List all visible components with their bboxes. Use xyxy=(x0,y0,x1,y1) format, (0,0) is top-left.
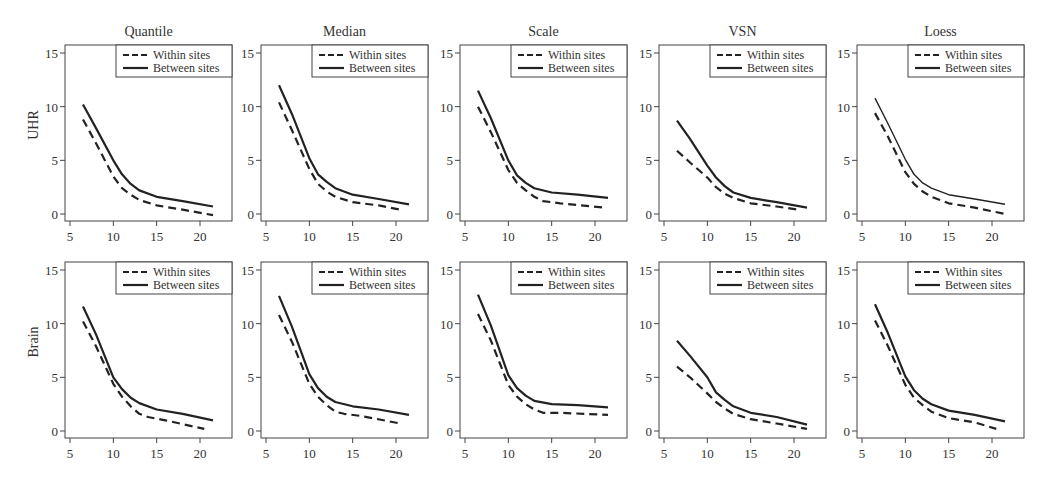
x-tick-label: 15 xyxy=(744,229,757,244)
series-within-sites xyxy=(279,315,400,423)
legend: Within sitesBetween sites xyxy=(511,262,627,294)
x-tick-label: 10 xyxy=(899,229,912,244)
panel-brain-median: 0510155101520Within sitesBetween sites xyxy=(241,262,428,461)
panel-uhr-vsn: VSN0510155101520Within sitesBetween site… xyxy=(639,24,826,244)
x-tick-label: 5 xyxy=(67,229,74,244)
legend-label: Between sites xyxy=(153,61,220,75)
x-tick-label: 10 xyxy=(899,446,912,461)
series-between-sites xyxy=(83,307,213,421)
x-tick-label: 5 xyxy=(859,446,866,461)
y-tick-label: 15 xyxy=(440,263,453,278)
legend-label: Within sites xyxy=(349,48,407,62)
column-title: Scale xyxy=(528,24,558,39)
series-within-sites xyxy=(875,320,996,429)
panel-uhr-scale: Scale0510155101520Within sitesBetween si… xyxy=(440,24,627,244)
y-tick-label: 5 xyxy=(844,370,851,385)
y-tick-label: 15 xyxy=(45,263,58,278)
legend-label: Within sites xyxy=(747,265,805,279)
legend: Within sitesBetween sites xyxy=(511,45,627,77)
small-multiples-figure: UHRQuantile0510155101520Within sitesBetw… xyxy=(0,0,1050,487)
y-tick-label: 5 xyxy=(447,370,454,385)
legend-label: Between sites xyxy=(548,278,615,292)
column-title: VSN xyxy=(728,24,756,39)
x-tick-label: 5 xyxy=(263,446,270,461)
y-tick-label: 0 xyxy=(844,207,851,222)
y-tick-label: 0 xyxy=(646,207,653,222)
x-tick-label: 5 xyxy=(263,229,270,244)
y-tick-label: 5 xyxy=(52,370,59,385)
y-tick-label: 0 xyxy=(52,424,59,439)
x-tick-label: 20 xyxy=(194,229,207,244)
y-tick-label: 10 xyxy=(837,317,850,332)
x-tick-label: 20 xyxy=(390,229,403,244)
x-tick-label: 10 xyxy=(303,446,316,461)
series-between-sites xyxy=(677,341,807,425)
x-tick-label: 5 xyxy=(661,229,668,244)
x-tick-label: 15 xyxy=(150,229,163,244)
legend: Within sitesBetween sites xyxy=(908,45,1024,77)
y-tick-label: 5 xyxy=(248,153,255,168)
series-between-sites xyxy=(478,295,608,408)
column-title: Loess xyxy=(924,24,957,39)
x-tick-label: 10 xyxy=(502,229,515,244)
y-tick-label: 10 xyxy=(241,317,254,332)
y-tick-label: 15 xyxy=(45,46,58,61)
panel-brain-loess: 0510155101520Within sitesBetween sites xyxy=(837,262,1024,461)
legend: Within sitesBetween sites xyxy=(312,262,428,294)
y-tick-label: 15 xyxy=(639,46,652,61)
legend-label: Within sites xyxy=(349,265,407,279)
y-tick-label: 5 xyxy=(447,153,454,168)
x-tick-label: 20 xyxy=(986,446,999,461)
column-title: Quantile xyxy=(124,24,172,39)
x-tick-label: 20 xyxy=(390,446,403,461)
y-tick-label: 5 xyxy=(248,370,255,385)
y-tick-label: 0 xyxy=(248,207,255,222)
x-tick-label: 5 xyxy=(661,446,668,461)
legend-label: Between sites xyxy=(747,61,814,75)
x-tick-label: 20 xyxy=(194,446,207,461)
legend: Within sitesBetween sites xyxy=(116,45,232,77)
x-tick-label: 10 xyxy=(303,229,316,244)
y-tick-label: 0 xyxy=(646,424,653,439)
series-within-sites xyxy=(83,322,204,429)
legend-label: Within sites xyxy=(153,48,211,62)
x-tick-label: 20 xyxy=(986,229,999,244)
legend-label: Between sites xyxy=(548,61,615,75)
panel-brain-quantile: 0510155101520Within sitesBetween sites xyxy=(45,262,232,461)
y-tick-label: 10 xyxy=(440,100,453,115)
x-tick-label: 10 xyxy=(701,229,714,244)
series-within-sites xyxy=(478,314,608,415)
legend-label: Between sites xyxy=(349,61,416,75)
series-within-sites xyxy=(875,113,1005,214)
panel-uhr-quantile: Quantile0510155101520Within sitesBetween… xyxy=(45,24,232,244)
row-label-brain: Brain xyxy=(26,326,41,357)
y-tick-label: 5 xyxy=(844,153,851,168)
y-tick-label: 15 xyxy=(241,263,254,278)
legend-label: Within sites xyxy=(945,48,1003,62)
x-tick-label: 5 xyxy=(462,229,469,244)
y-tick-label: 10 xyxy=(639,100,652,115)
y-tick-label: 0 xyxy=(447,207,454,222)
x-tick-label: 15 xyxy=(545,446,558,461)
x-tick-label: 10 xyxy=(701,446,714,461)
y-tick-label: 10 xyxy=(45,317,58,332)
x-tick-label: 15 xyxy=(942,229,955,244)
x-tick-label: 20 xyxy=(589,229,602,244)
y-tick-label: 5 xyxy=(646,153,653,168)
x-tick-label: 15 xyxy=(942,446,955,461)
y-tick-label: 5 xyxy=(52,153,59,168)
x-tick-label: 10 xyxy=(107,229,120,244)
panel-uhr-median: Median0510155101520Within sitesBetween s… xyxy=(241,24,428,244)
x-tick-label: 20 xyxy=(589,446,602,461)
x-tick-label: 20 xyxy=(788,229,801,244)
column-title: Median xyxy=(323,24,366,39)
legend-label: Between sites xyxy=(153,278,220,292)
legend: Within sitesBetween sites xyxy=(710,262,826,294)
legend-label: Between sites xyxy=(945,278,1012,292)
panel-uhr-loess: Loess0510155101520Within sitesBetween si… xyxy=(837,24,1024,244)
x-tick-label: 15 xyxy=(150,446,163,461)
legend: Within sitesBetween sites xyxy=(710,45,826,77)
x-tick-label: 15 xyxy=(346,446,359,461)
series-within-sites xyxy=(478,107,604,208)
y-tick-label: 10 xyxy=(440,317,453,332)
